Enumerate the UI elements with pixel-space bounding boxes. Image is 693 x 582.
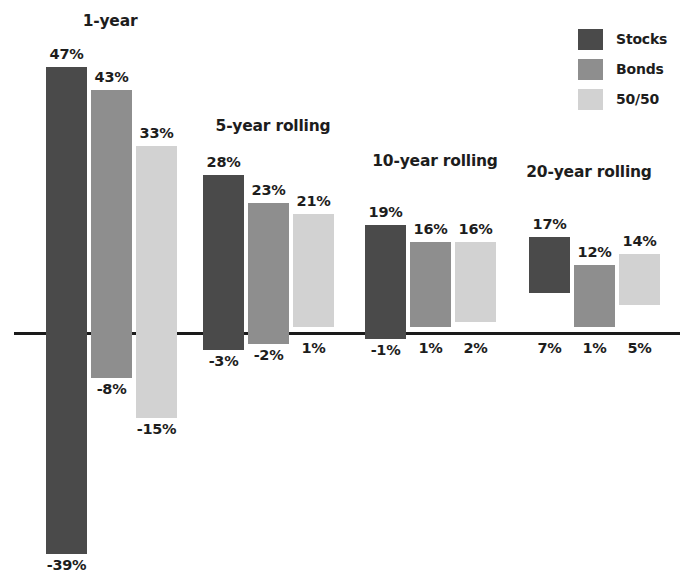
- bar-bonds: [574, 265, 615, 327]
- range-bar-chart: 1-year47%-39%43%-8%33%-15%5-year rolling…: [0, 0, 693, 582]
- group-title: 1-year: [83, 12, 138, 30]
- bar-bonds: [248, 203, 289, 345]
- group-title: 20-year rolling: [526, 163, 651, 181]
- legend-label: Stocks: [616, 31, 667, 47]
- legend-swatch-icon: [578, 59, 603, 80]
- bar-max-label: 47%: [37, 46, 97, 62]
- bar-min-label: -8%: [82, 381, 142, 397]
- bar-max-label: 43%: [82, 69, 142, 85]
- bar-max-label: 16%: [446, 221, 506, 237]
- bar-max-label: 28%: [194, 154, 254, 170]
- bar-min-label: -15%: [127, 421, 187, 437]
- bar-stocks: [203, 175, 244, 350]
- legend-label: Bonds: [616, 61, 664, 77]
- bar-min-label: -39%: [37, 557, 97, 573]
- bar-50-50: [136, 146, 177, 418]
- bar-50-50: [293, 214, 334, 327]
- bar-min-label: 5%: [610, 340, 670, 356]
- bar-max-label: 19%: [356, 204, 416, 220]
- group-title: 10-year rolling: [372, 152, 497, 170]
- legend: StocksBonds50/50: [578, 24, 667, 114]
- bar-stocks: [46, 67, 87, 554]
- legend-swatch-icon: [578, 89, 603, 110]
- bar-max-label: 21%: [284, 193, 344, 209]
- bar-min-label: 2%: [446, 340, 506, 356]
- legend-item: 50/50: [578, 84, 667, 114]
- bar-stocks: [365, 225, 406, 338]
- bar-max-label: 33%: [127, 125, 187, 141]
- legend-label: 50/50: [616, 91, 659, 107]
- legend-item: Stocks: [578, 24, 667, 54]
- legend-swatch-icon: [578, 29, 603, 50]
- legend-item: Bonds: [578, 54, 667, 84]
- bar-bonds: [410, 242, 451, 327]
- bar-max-label: 17%: [520, 216, 580, 232]
- group-title: 5-year rolling: [216, 117, 331, 135]
- bar-max-label: 14%: [610, 233, 670, 249]
- bar-50-50: [455, 242, 496, 321]
- bar-min-label: 1%: [284, 340, 344, 356]
- bar-50-50: [619, 254, 660, 305]
